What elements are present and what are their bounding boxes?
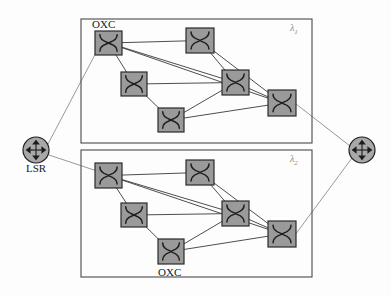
lsr-label: LSR — [26, 162, 47, 174]
oxc-node-d5[interactable] — [158, 239, 184, 264]
lambda-2-label: λ2 — [289, 153, 298, 167]
lsr-node-left[interactable] — [23, 137, 49, 163]
lsr-node-right[interactable] — [349, 137, 375, 163]
plane1-to-lsr-right — [296, 104, 350, 146]
oxc-node-d2[interactable] — [186, 160, 214, 185]
plane2-to-lsr-right — [295, 158, 352, 235]
oxc-node-d6[interactable] — [268, 221, 296, 247]
oxc-node-u4[interactable] — [222, 70, 249, 95]
fiber-link-d3-d4 — [134, 214, 236, 216]
oxc-node-u3[interactable] — [121, 72, 147, 96]
oxc-node-u1[interactable] — [95, 31, 122, 55]
lambda-1-label: λ1 — [289, 22, 298, 36]
lsr-left-to-plane2 — [49, 155, 100, 172]
oxc-label-top: OXC — [92, 18, 115, 30]
oxc-node-d4[interactable] — [222, 201, 249, 226]
lsr-left-to-plane1 — [48, 47, 99, 144]
diagram-canvas: OXCOXCLSRλ1λ2 — [0, 0, 391, 297]
oxc-node-d3[interactable] — [121, 203, 147, 227]
fiber-link-u3-u4 — [134, 83, 236, 85]
oxc-node-u5[interactable] — [158, 108, 184, 132]
fiber-link-u5-u6 — [171, 103, 282, 120]
oxc-node-u2[interactable] — [186, 28, 214, 53]
oxc-node-d1[interactable] — [95, 163, 122, 188]
network-diagram-figure: OXCOXCLSRλ1λ2 — [0, 0, 391, 297]
oxc-label-bottom: OXC — [158, 266, 181, 278]
fiber-link-d5-d6 — [171, 234, 282, 252]
oxc-node-u6[interactable] — [268, 90, 296, 116]
